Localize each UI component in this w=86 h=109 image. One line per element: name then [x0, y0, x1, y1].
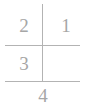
middle-horizontal-line: [5, 45, 80, 46]
label-upper-left-quadrant: 2: [14, 16, 34, 35]
diagram-canvas: 2 1 3 4: [0, 0, 86, 109]
bottom-horizontal-line: [5, 81, 80, 82]
label-upper-right-quadrant: 1: [56, 16, 76, 35]
vertical-divider-line: [42, 4, 43, 82]
label-bottom-center: 4: [33, 86, 53, 105]
label-lower-left-quadrant: 3: [14, 54, 34, 73]
